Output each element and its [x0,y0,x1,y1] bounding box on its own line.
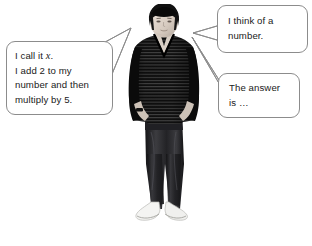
think-line-2: number. [228,29,307,44]
scene: I call it x. I add 2 to my number and th… [0,0,312,246]
method-line-4: multiply by 5. [15,93,112,108]
method-line-2: I add 2 to my [15,64,112,79]
method-line-1: I call it x. [15,49,112,64]
answer-line-2: is … [229,96,299,111]
think-speech-bubble: I think of a number. [217,5,308,53]
person-photo [118,4,210,242]
method-line-3: number and then [15,78,112,93]
answer-line-1: The answer [229,81,299,96]
method-speech-bubble: I call it x. I add 2 to my number and th… [6,41,113,115]
think-line-1: I think of a [228,14,307,29]
method-line-1-prefix: I call it [15,50,46,61]
answer-speech-bubble: The answer is … [218,73,300,118]
method-line-1-suffix: . [51,50,54,61]
